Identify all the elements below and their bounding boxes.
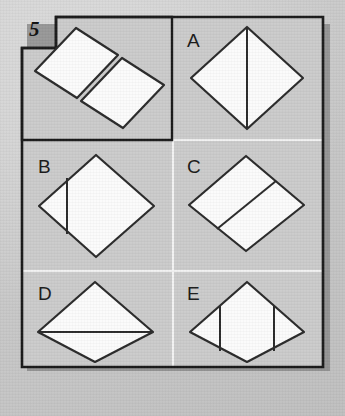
puzzle-page: 5 A B C D: [0, 0, 345, 416]
option-cell-d[interactable]: D: [22, 271, 173, 367]
option-cell-b[interactable]: B: [22, 140, 173, 271]
option-d-rhombus: [38, 282, 153, 362]
option-figure-d: [22, 271, 173, 367]
option-cell-c[interactable]: C: [173, 140, 323, 271]
option-cell-a[interactable]: A: [173, 17, 323, 140]
option-c-rhombus: [189, 156, 304, 251]
option-e-rhombus: [190, 282, 304, 362]
option-figure-b: [22, 140, 173, 271]
option-figure-e: [173, 271, 323, 367]
option-cell-e[interactable]: E: [173, 271, 323, 367]
option-figure-a: [173, 17, 323, 140]
question-figure: [22, 17, 172, 140]
option-b-rhombus: [39, 155, 154, 257]
question-cell: [22, 17, 172, 140]
option-figure-c: [173, 140, 323, 271]
